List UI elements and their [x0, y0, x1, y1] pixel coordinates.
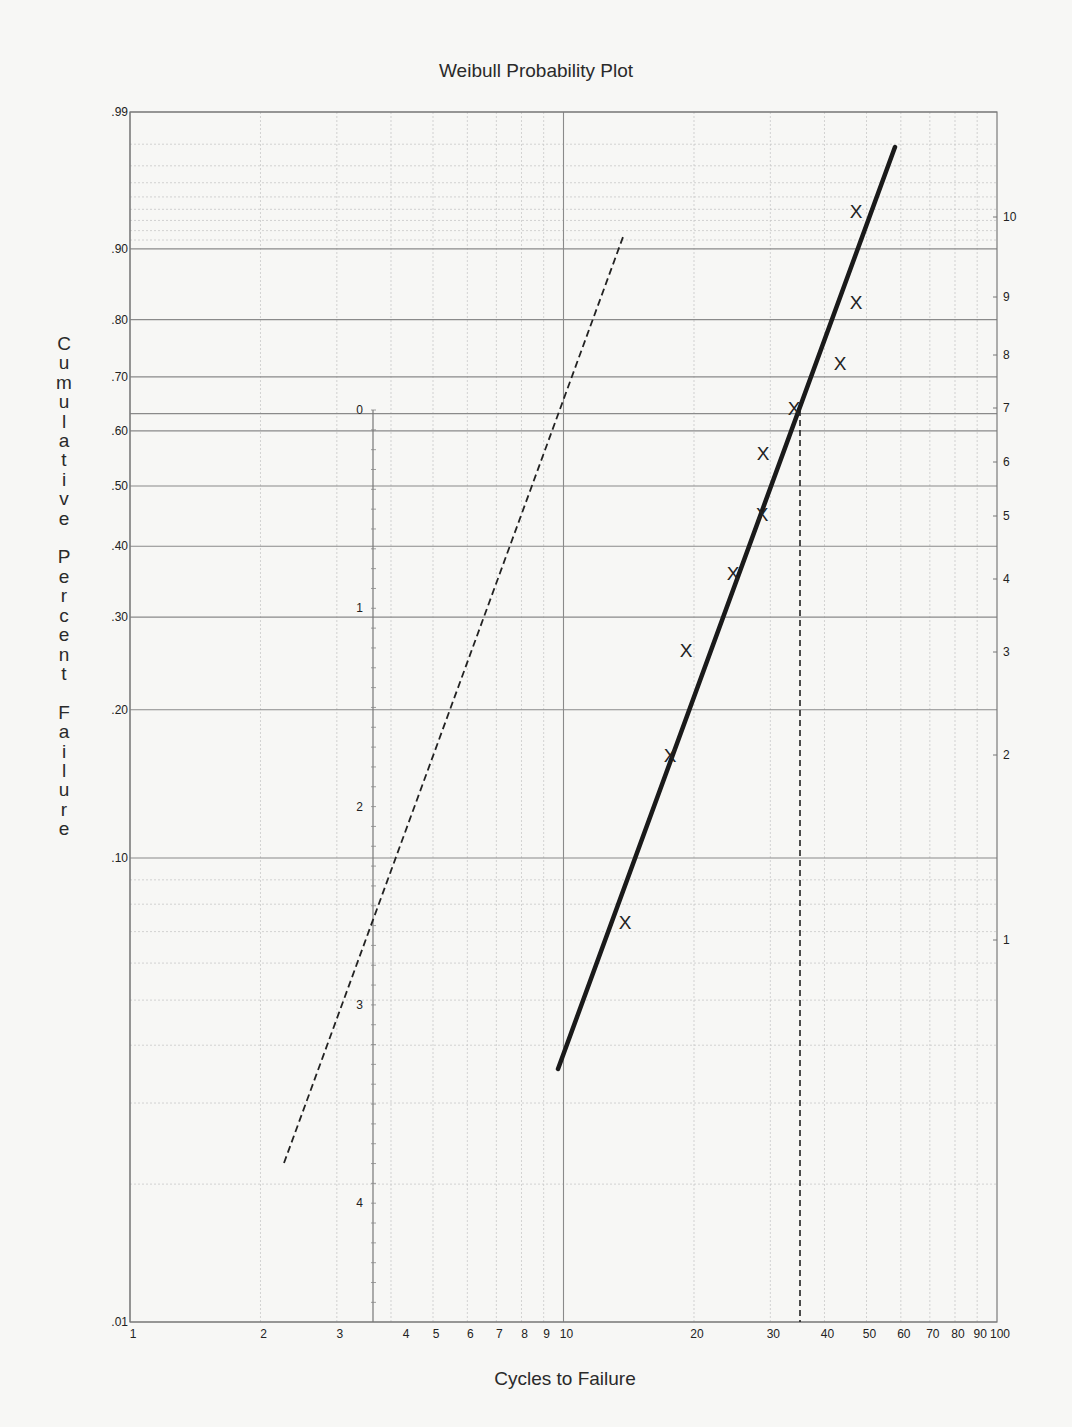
x-tick-label: 7 — [496, 1327, 503, 1341]
y-tick-label: .10 — [111, 851, 128, 865]
x-tick-label: 80 — [951, 1327, 965, 1341]
x-tick-label: 3 — [336, 1327, 343, 1341]
y-tick-label: .40 — [111, 539, 128, 553]
right-rank-label: 9 — [1003, 290, 1010, 304]
slope-scale-label: 3 — [356, 998, 363, 1012]
data-point-x-marker: X — [850, 201, 863, 222]
major-grid — [130, 112, 997, 1322]
right-rank-label: 1 — [1003, 933, 1010, 947]
y-tick-label: .80 — [111, 313, 128, 327]
data-point-x-marker: X — [850, 292, 863, 313]
weibull-plot-canvas: 01234 123456789102030405060708090100 .99… — [0, 0, 1072, 1427]
data-point-x-marker: X — [756, 504, 769, 525]
x-tick-label: 6 — [467, 1327, 474, 1341]
x-tick-label: 40 — [821, 1327, 835, 1341]
y-tick-label: .50 — [111, 479, 128, 493]
y-tick-label: .70 — [111, 370, 128, 384]
y-tick-label: .30 — [111, 610, 128, 624]
slope-scale-label: 1 — [356, 601, 363, 615]
y-tick-label: .20 — [111, 703, 128, 717]
y-tick-label: .99 — [111, 105, 128, 119]
x-tick-label: 2 — [260, 1327, 267, 1341]
weibull-fit-line — [558, 147, 895, 1069]
x-tick-label: 100 — [990, 1327, 1010, 1341]
x-tick-label: 90 — [973, 1327, 987, 1341]
data-point-x-marker: X — [619, 912, 632, 933]
x-tick-label: 70 — [926, 1327, 940, 1341]
right-rank-label: 2 — [1003, 748, 1010, 762]
right-rank-label: 6 — [1003, 455, 1010, 469]
slope-scale-label: 4 — [356, 1196, 363, 1210]
x-tick-label: 20 — [690, 1327, 704, 1341]
data-point-x-marker: X — [727, 563, 740, 584]
x-tick-label: 5 — [433, 1327, 440, 1341]
x-tick-label: 9 — [543, 1327, 550, 1341]
y-axis-left-ticks: .99.90.80.70.60.50.40.30.20.10.01 — [111, 105, 128, 1329]
y-tick-label: .60 — [111, 424, 128, 438]
right-rank-label: 3 — [1003, 645, 1010, 659]
data-point-x-marker: X — [834, 353, 847, 374]
y-tick-label: .01 — [111, 1315, 128, 1329]
data-point-x-marker: X — [788, 398, 801, 419]
x-tick-label: 10 — [560, 1327, 574, 1341]
slope-scale-label: 2 — [356, 800, 363, 814]
slope-scale-label: 0 — [356, 403, 363, 417]
data-point-x-marker: X — [680, 640, 693, 661]
x-tick-label: 4 — [403, 1327, 410, 1341]
x-tick-label: 1 — [130, 1327, 137, 1341]
data-point-x-marker: X — [757, 443, 770, 464]
data-point-x-marker: X — [664, 745, 677, 766]
right-rank-label: 4 — [1003, 572, 1010, 586]
x-tick-label: 8 — [521, 1327, 528, 1341]
x-axis-ticks: 123456789102030405060708090100 — [130, 1327, 1011, 1341]
right-rank-label: 7 — [1003, 401, 1010, 415]
x-tick-label: 30 — [767, 1327, 781, 1341]
right-rank-label: 10 — [1003, 210, 1017, 224]
right-rank-label: 8 — [1003, 348, 1010, 362]
y-tick-label: .90 — [111, 242, 128, 256]
x-tick-label: 50 — [863, 1327, 877, 1341]
x-tick-label: 60 — [897, 1327, 911, 1341]
right-rank-label: 5 — [1003, 509, 1010, 523]
